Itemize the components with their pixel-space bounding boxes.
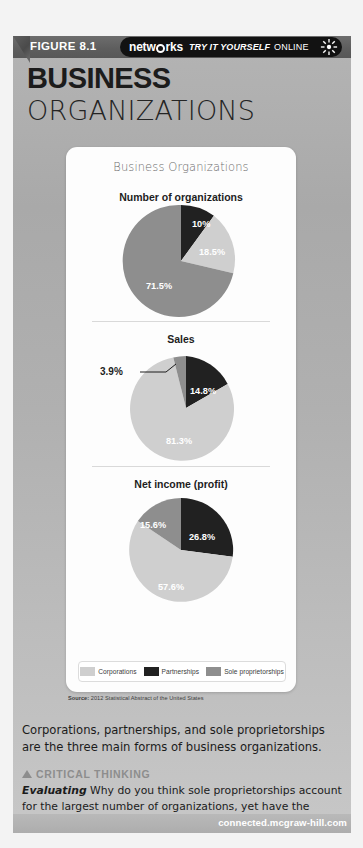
try-it-yourself-label: TRY IT YOURSELF (189, 42, 270, 52)
pie-2-label-partnerships: 14.8% (190, 386, 216, 396)
chart-legend: Corporations Partnerships Sole proprieto… (78, 661, 286, 682)
pie-chart-1: 10% 18.5% 71.5% (106, 203, 256, 321)
chart-card: Business Organizations Number of organiz… (66, 147, 296, 692)
sunburst-icon (320, 38, 338, 56)
pie-1-label-corporations: 18.5% (199, 247, 225, 257)
legend-label-corporations: Corporations (98, 668, 136, 675)
legend-label-sole-proprietorships: Sole proprietorships (224, 668, 284, 675)
pie-chart-3: 26.8% 57.6% 15.6% (96, 490, 266, 608)
figure-page: FIGURE 8.1 netwrks TRY IT YOURSELF ONLIN… (0, 0, 363, 848)
chart-1-pie: 10% 18.5% 71.5% (66, 203, 296, 321)
legend-item-corporations: Corporations (80, 667, 136, 676)
chart-divider-1 (92, 321, 270, 322)
pie-1-label-partnerships: 10% (192, 219, 210, 229)
chart-divider-2 (92, 466, 270, 467)
legend-swatch-partnerships (144, 667, 159, 676)
pie-chart-2: 3.9% 14.8% 81.3% (96, 346, 266, 466)
legend-item-sole-proprietorships: Sole proprietorships (206, 667, 284, 676)
pie-3-label-corporations: 57.6% (158, 582, 184, 592)
online-label: ONLINE (274, 42, 309, 52)
chart-1-heading: Number of organizations (66, 191, 296, 203)
legend-swatch-sole-proprietorships (206, 667, 221, 676)
footer-url[interactable]: connected.mcgraw-hill.com (218, 817, 347, 828)
globe-o-icon (156, 44, 165, 53)
chart-3-heading: Net income (profit) (66, 478, 296, 490)
chart-2-heading: Sales (66, 333, 296, 345)
chart-number-of-organizations: Number of organizations 10% 18.5% 71.5% (66, 191, 296, 321)
figure-caption: Corporations, partnerships, and sole pro… (22, 722, 334, 756)
chart-sales: Sales 3.9% 14.8% 81.3% (66, 333, 296, 465)
chart-net-income: Net income (profit) 26.8% 57.6% 15.6% (66, 478, 296, 608)
figure-title: BUSINESS ORGANIZATIONS (27, 63, 327, 125)
figure-number-label: FIGURE 8.1 (30, 40, 97, 52)
networks-brand-text-tail: rks (166, 40, 183, 54)
triangle-icon (22, 770, 32, 778)
pie-3-label-sole-proprietorships: 15.6% (140, 520, 166, 530)
networks-brand-pill[interactable]: netwrks TRY IT YOURSELF ONLINE (120, 37, 342, 57)
critical-thinking-prompt-label: Evaluating (22, 784, 87, 797)
pie-1-label-sole-proprietorships: 71.5% (146, 281, 172, 291)
legend-item-partnerships: Partnerships (144, 667, 200, 676)
pie-3-label-partnerships: 26.8% (189, 532, 215, 542)
networks-brand-text: netw (129, 40, 156, 54)
chart-card-title: Business Organizations (66, 160, 296, 174)
chart-2-pie: 3.9% 14.8% 81.3% (66, 346, 296, 466)
critical-thinking-header: CRITICAL THINKING (22, 768, 150, 780)
figure-title-line1: BUSINESS (27, 63, 327, 94)
critical-thinking-title: CRITICAL THINKING (36, 768, 150, 780)
figure-title-line2: ORGANIZATIONS (27, 96, 327, 126)
chart-3-pie: 26.8% 57.6% 15.6% (66, 490, 296, 608)
pie-3-slice-partnerships (181, 498, 233, 557)
legend-label-partnerships: Partnerships (162, 668, 200, 675)
legend-swatch-corporations (80, 667, 95, 676)
pie-2-label-corporations: 81.3% (166, 436, 192, 446)
networks-brand-label: netwrks (129, 40, 183, 54)
chart-source: Source: 2012 Statistical Abstract of the… (68, 695, 203, 701)
pie-2-label-sole-proprietorships: 3.9% (100, 366, 123, 377)
source-prefix: Source: (68, 695, 89, 701)
source-text: 2012 Statistical Abstract of the United … (91, 695, 204, 701)
